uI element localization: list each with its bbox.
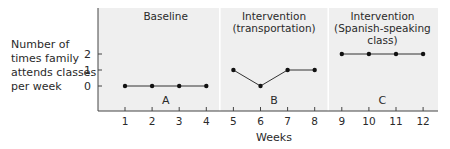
phase-letter: A [162, 94, 170, 107]
x-tick-label: 1 [122, 115, 129, 127]
x-tick-label: 5 [230, 115, 237, 127]
x-tick-label: 4 [203, 115, 210, 127]
x-tick-label: 9 [338, 115, 345, 127]
data-point [258, 84, 262, 88]
phase-title: (transportation) [232, 22, 315, 34]
data-point [313, 68, 317, 72]
data-point [123, 84, 127, 88]
y-axis-label-line: times family [11, 52, 80, 65]
y-axis-label-line: per week [11, 80, 62, 93]
data-point [177, 84, 181, 88]
x-axis-label: Weeks [256, 131, 292, 144]
data-point [204, 84, 208, 88]
phase-letter: B [270, 94, 278, 107]
x-tick-label: 7 [284, 115, 291, 127]
data-point [150, 84, 154, 88]
x-tick-label: 6 [257, 115, 264, 127]
data-point [367, 52, 371, 56]
x-tick-label: 12 [416, 115, 429, 127]
x-tick-label: 8 [311, 115, 318, 127]
x-tick-label: 3 [176, 115, 183, 127]
phase-title: Intervention [350, 10, 414, 22]
y-axis-label-line: Number of [11, 38, 70, 51]
data-point [285, 68, 289, 72]
data-point [394, 52, 398, 56]
ab-design-line-chart: 012 123456789101112 BaselineIntervention… [0, 0, 450, 149]
phase-letter: C [379, 94, 387, 107]
phase-title: class) [367, 34, 397, 46]
phase-title: (Spanish-speaking [334, 22, 431, 34]
x-tick-label: 10 [362, 115, 375, 127]
y-tick-label: 0 [84, 80, 91, 93]
y-tick-label: 2 [84, 48, 91, 61]
data-point [231, 68, 235, 72]
y-axis-label-line: attends classes [11, 66, 96, 79]
x-tick-label: 11 [389, 115, 402, 127]
phase-title: Baseline [143, 10, 188, 22]
data-point [421, 52, 425, 56]
x-tick-label: 2 [149, 115, 156, 127]
data-point [340, 52, 344, 56]
phase-title: Intervention [242, 10, 306, 22]
